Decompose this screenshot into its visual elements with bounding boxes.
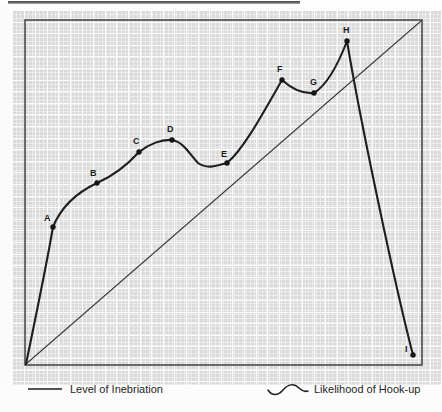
data-point-d	[169, 137, 174, 142]
legend-label-hookup: Likelihood of Hook-up	[314, 383, 420, 395]
data-point-label-a: A	[44, 213, 51, 223]
legend-item-inebriation[interactable]: Level of Inebriation	[28, 383, 163, 395]
data-point-i	[410, 352, 415, 357]
data-point-label-e: E	[221, 149, 227, 159]
data-point-h	[344, 38, 349, 43]
data-point-label-c: C	[133, 136, 140, 146]
data-point-label-h: H	[343, 25, 350, 35]
legend: Level of Inebriation Likelihood of Hook-…	[28, 383, 420, 395]
data-point-label-d: D	[167, 124, 174, 134]
figure-page: A B C D E F G H I Level of Inebriation L…	[0, 0, 442, 412]
wavy-line-icon	[268, 385, 308, 395]
hookup-curve	[26, 41, 413, 364]
data-point-g	[311, 90, 316, 95]
data-point-f	[279, 77, 284, 82]
legend-item-hookup[interactable]: Likelihood of Hook-up	[268, 383, 420, 395]
inebriation-line	[26, 21, 421, 364]
data-point-label-g: G	[310, 77, 317, 87]
legend-label-inebriation: Level of Inebriation	[70, 383, 163, 395]
data-point-label-f: F	[277, 64, 283, 74]
data-point-b	[94, 180, 99, 185]
chart-figure: A B C D E F G H I Level of Inebriation L…	[0, 0, 442, 412]
data-point-label-i: I	[405, 344, 408, 354]
data-point-c	[136, 149, 141, 154]
data-point-e	[224, 160, 229, 165]
data-point-label-b: B	[90, 168, 97, 178]
data-point-a	[50, 224, 55, 229]
series-level-of-inebriation	[26, 21, 421, 364]
